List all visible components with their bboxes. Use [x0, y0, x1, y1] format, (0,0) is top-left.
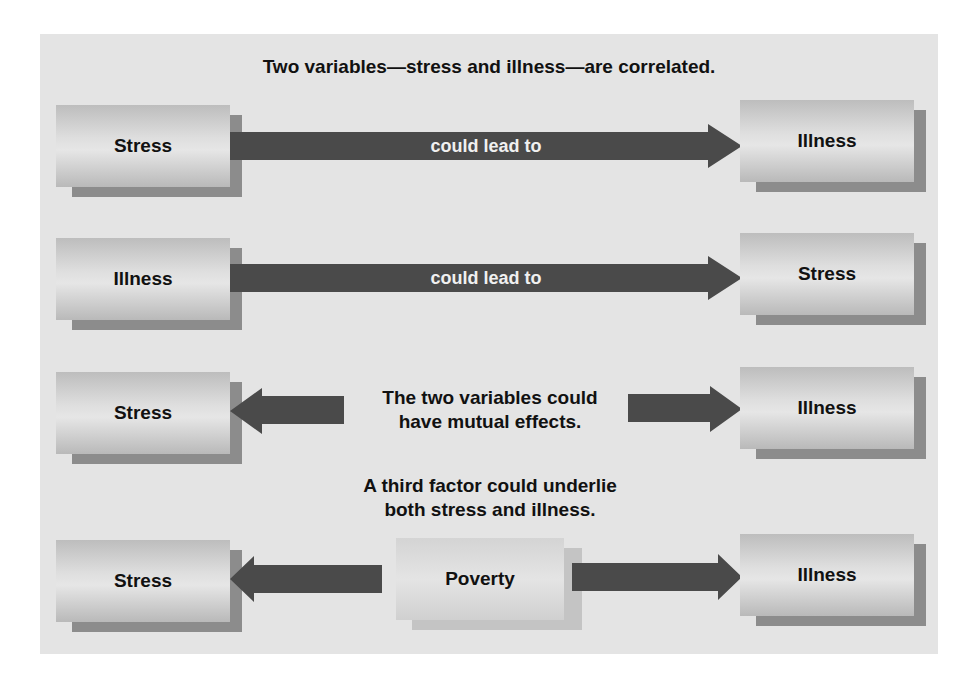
node-label: Illness — [56, 238, 230, 320]
mutual-effects-text: The two variables could have mutual effe… — [340, 386, 640, 434]
node-label: Illness — [740, 100, 914, 182]
arrow-right-row2: could lead to — [230, 256, 742, 300]
third-factor-line-1: A third factor could underlie — [320, 474, 660, 498]
node-stress-row4: Stress — [56, 540, 242, 632]
arrow-left-icon — [230, 388, 344, 434]
third-factor-caption: A third factor could underlie both stres… — [320, 474, 660, 522]
node-stress-row1: Stress — [56, 105, 242, 197]
node-label: Stress — [740, 233, 914, 315]
arrow-label: could lead to — [230, 124, 742, 168]
arrow-right-row4 — [572, 554, 742, 600]
arrow-left-row4 — [230, 556, 382, 602]
arrow-label: could lead to — [230, 256, 742, 300]
arrow-right-icon — [572, 554, 742, 600]
node-illness-row4: Illness — [740, 534, 926, 626]
node-label: Stress — [56, 105, 230, 187]
node-stress-row3: Stress — [56, 372, 242, 464]
node-stress-row2: Stress — [740, 233, 926, 325]
node-illness-row3: Illness — [740, 367, 926, 459]
diagram-title: Two variables—stress and illness—are cor… — [40, 56, 938, 78]
node-label: Stress — [56, 540, 230, 622]
node-illness-row2: Illness — [56, 238, 242, 330]
arrow-left-icon — [230, 556, 382, 602]
mutual-effects-line-2: have mutual effects. — [340, 410, 640, 434]
mutual-effects-line-1: The two variables could — [340, 386, 640, 410]
arrow-right-row3 — [628, 386, 742, 432]
node-poverty: Poverty — [396, 538, 582, 630]
arrow-right-icon — [628, 386, 742, 432]
third-factor-line-2: both stress and illness. — [320, 498, 660, 522]
arrow-right-row1: could lead to — [230, 124, 742, 168]
diagram-panel: Two variables—stress and illness—are cor… — [40, 34, 938, 654]
node-label: Illness — [740, 534, 914, 616]
node-label: Stress — [56, 372, 230, 454]
node-label: Poverty — [396, 538, 564, 620]
node-label: Illness — [740, 367, 914, 449]
arrow-left-row3 — [230, 388, 344, 434]
node-illness-row1: Illness — [740, 100, 926, 192]
